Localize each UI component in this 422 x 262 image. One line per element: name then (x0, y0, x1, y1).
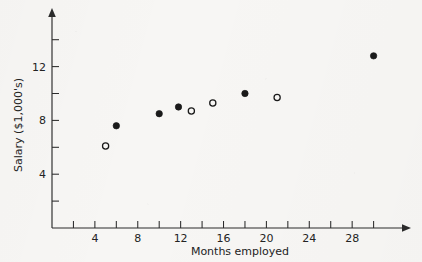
data-point-open (274, 94, 280, 100)
x-tick-label-group: 481216202428 (91, 232, 359, 245)
y-tick-group (52, 40, 59, 201)
y-tick-label-group: 4812 (32, 61, 46, 182)
data-point-filled (156, 110, 162, 116)
x-tick-label: 28 (345, 232, 359, 245)
data-point-open (210, 100, 216, 106)
y-tick-label: 12 (32, 61, 46, 74)
x-tick-label: 4 (91, 232, 98, 245)
scatter-plot-figure: 4812 481216202428 Months employed Salary… (0, 0, 422, 262)
x-axis (52, 224, 411, 232)
plot-canvas: 4812 481216202428 Months employed Salary… (0, 0, 422, 262)
y-axis-title: Salary ($1,000's) (12, 78, 25, 172)
data-point-open (188, 108, 194, 114)
y-axis (48, 8, 56, 228)
x-tick-label: 16 (217, 232, 231, 245)
x-tick-label: 8 (134, 232, 141, 245)
y-tick-label: 4 (39, 168, 46, 181)
data-point-filled (175, 104, 181, 110)
x-tick-label: 12 (174, 232, 188, 245)
x-axis-arrowhead (402, 224, 411, 232)
y-axis-arrowhead (48, 8, 56, 17)
data-point-group (103, 53, 377, 149)
data-point-open (103, 143, 109, 149)
x-tick-label: 24 (302, 232, 316, 245)
data-point-filled (370, 53, 376, 59)
data-point-filled (242, 90, 248, 96)
x-tick-label: 20 (259, 232, 273, 245)
y-tick-label: 8 (39, 114, 46, 127)
data-point-filled (113, 123, 119, 129)
x-tick-group (73, 221, 373, 228)
x-axis-title: Months employed (191, 245, 289, 258)
